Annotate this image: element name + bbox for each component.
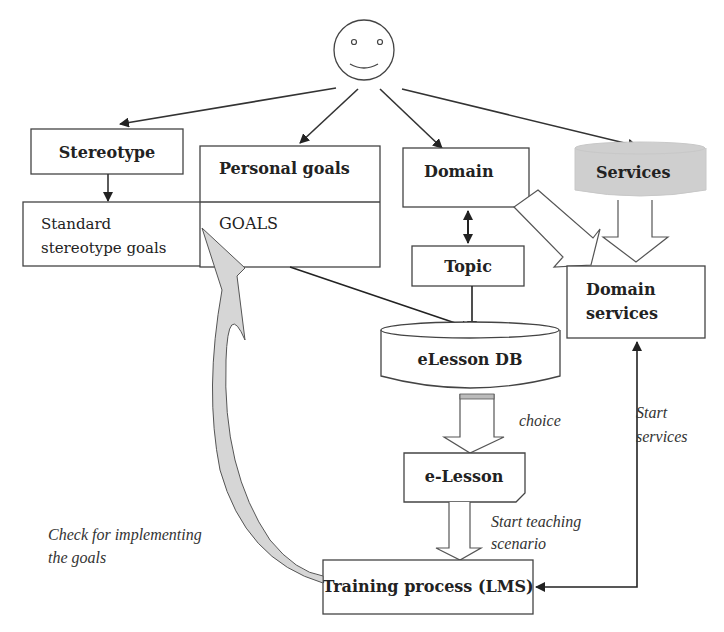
services-cylinder: Services [575, 142, 706, 196]
svg-text:Stereotype: Stereotype [59, 143, 155, 162]
check-goals-curved-arrow [202, 228, 323, 583]
svg-text:e-Lesson: e-Lesson [425, 467, 504, 486]
smiley-face-icon [334, 20, 394, 80]
domain-to-services-block-arrow [514, 190, 600, 267]
elesson-db-cylinder: eLesson DB [381, 322, 560, 388]
stereotype-box: Stereotype [31, 129, 183, 174]
training-process-box: Training process (LMS) [322, 560, 533, 614]
diagram-canvas: Stereotype Standard stereotype goals Per… [0, 0, 724, 632]
domain-services-box: Domain services [567, 266, 705, 338]
svg-text:eLesson DB: eLesson DB [418, 350, 523, 369]
standard-stereotype-goals-box: Standard stereotype goals [23, 202, 201, 266]
choice-label: choice [519, 412, 561, 429]
start-teaching-label: Start teaching [491, 513, 581, 531]
svg-text:Services: Services [596, 163, 670, 182]
scenario-label: scenario [491, 535, 546, 552]
elesson-to-training-block-arrow [436, 502, 481, 560]
svg-text:Domain: Domain [424, 162, 494, 181]
svg-text:Training process (LMS): Training process (LMS) [322, 577, 533, 596]
db-to-elesson-block-arrow [444, 394, 504, 453]
topic-box: Topic [412, 246, 524, 286]
svg-text:stereotype goals: stereotype goals [41, 239, 167, 257]
svg-text:Personal goals: Personal goals [219, 159, 350, 178]
svg-text:Standard: Standard [41, 215, 112, 233]
svg-text:Topic: Topic [444, 257, 492, 276]
personal-goals-box: Personal goals GOALS [200, 146, 380, 267]
start-services-label: Start [636, 404, 668, 421]
services-label: services [636, 428, 688, 445]
actor-arrows [120, 88, 637, 148]
the-goals-label: the goals [48, 549, 106, 567]
check-goals-label: Check for implementing [48, 526, 202, 544]
elesson-box: e-Lesson [404, 453, 525, 502]
svg-text:services: services [586, 304, 658, 323]
domain-box: Domain [403, 148, 529, 207]
services-to-domain-services-block-arrow [603, 200, 668, 262]
svg-text:Domain: Domain [586, 280, 656, 299]
svg-text:GOALS: GOALS [219, 214, 278, 233]
